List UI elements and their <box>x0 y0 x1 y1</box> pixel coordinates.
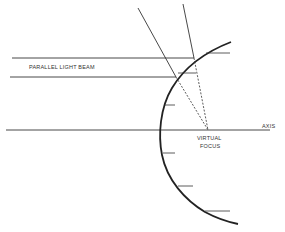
virtual-focus-label-1: VIRTUAL <box>197 135 222 141</box>
virtual-focus-label-2: FOCUS <box>200 143 220 149</box>
convex-mirror-diagram: PARALLEL LIGHT BEAM AXIS VIRTUAL FOCUS <box>0 0 285 232</box>
virtual-extension-upper <box>194 58 208 130</box>
parallel-beam-label: PARALLEL LIGHT BEAM <box>29 64 95 70</box>
axis-label: AXIS <box>262 123 275 129</box>
reflected-ray-lower <box>138 8 176 77</box>
reflected-ray-upper <box>183 4 194 58</box>
